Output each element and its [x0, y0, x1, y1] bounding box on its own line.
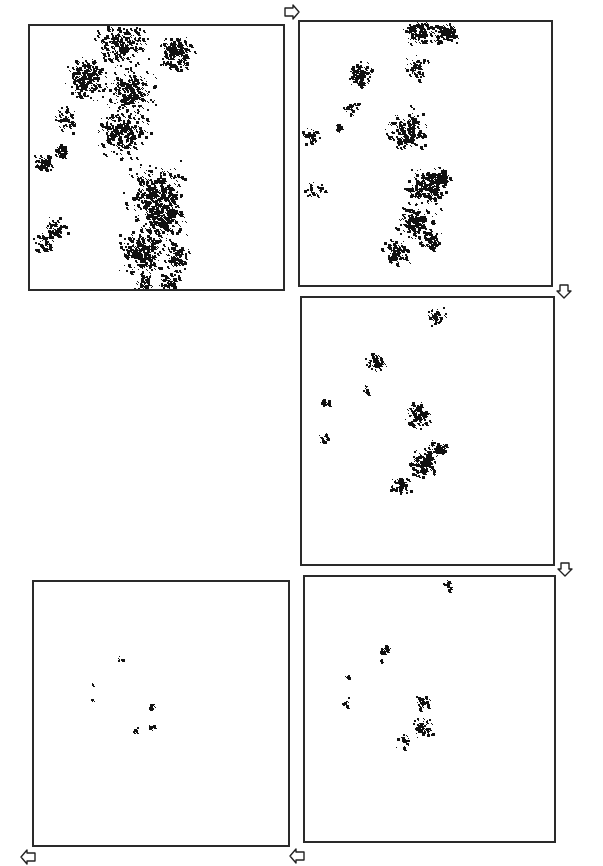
arrow-1-to-2-icon [283, 4, 301, 20]
cluster-plot [302, 298, 553, 564]
arrow-2-to-3-icon [555, 283, 573, 299]
panel-4 [303, 575, 556, 843]
cluster-plot [300, 22, 551, 285]
panel-2 [298, 20, 553, 287]
arrow-5-end-icon [19, 849, 37, 865]
arrow-4-to-5-icon [288, 848, 306, 864]
panel-5 [32, 580, 290, 847]
cluster-plot [305, 577, 554, 841]
arrow-3-to-4-icon [556, 561, 574, 577]
panel-1 [28, 24, 285, 291]
cluster-plot [30, 26, 283, 289]
panel-3 [300, 296, 555, 566]
cluster-plot [34, 582, 288, 845]
